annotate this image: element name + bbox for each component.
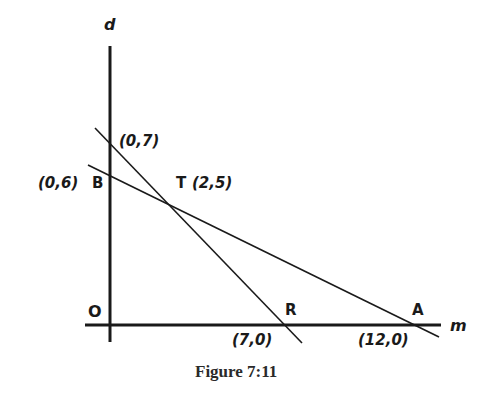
point-a-coords: (12,0): [358, 333, 409, 348]
figure-caption: Figure 7:11: [195, 362, 277, 382]
m-axis-label: m: [450, 318, 467, 334]
line-d6-a12: [88, 165, 439, 337]
line-d7-r7: [95, 128, 302, 343]
point-r-label: R: [285, 303, 297, 318]
point-t-label: T: [176, 176, 186, 191]
point-b-coords: (0,6): [38, 176, 78, 191]
d-axis-label: d: [104, 17, 115, 33]
point-a-label: A: [412, 303, 424, 318]
origin-label: O: [88, 304, 102, 320]
point-t-coords: (2,5): [192, 176, 232, 191]
point-d7-coords: (0,7): [119, 134, 159, 149]
point-b-label: B: [92, 176, 103, 191]
graph-figure: d m O (0,7) (0,6) B T (2,5) R (7,0) A (1…: [0, 0, 485, 403]
point-r-coords: (7,0): [232, 333, 272, 348]
